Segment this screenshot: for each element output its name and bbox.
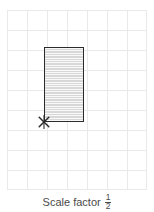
grid-right-edge — [146, 10, 147, 190]
scale-factor-label: Scale factor — [43, 196, 101, 209]
grid-bottom-edge — [7, 189, 147, 190]
shaded-rectangle-shape — [44, 47, 84, 122]
worksheet-figure: Scale factor12 — [0, 0, 154, 212]
fraction-denominator: 2 — [105, 203, 112, 210]
fraction-numerator: 1 — [105, 194, 112, 201]
scale-factor-fraction: 12 — [105, 194, 112, 210]
caption: Scale factor12 — [0, 194, 154, 210]
